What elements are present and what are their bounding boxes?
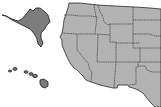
us-map [0, 0, 161, 107]
state-hawaii[interactable] [8, 68, 48, 88]
mainland-west [60, 3, 161, 107]
state-alaska[interactable] [2, 8, 50, 47]
